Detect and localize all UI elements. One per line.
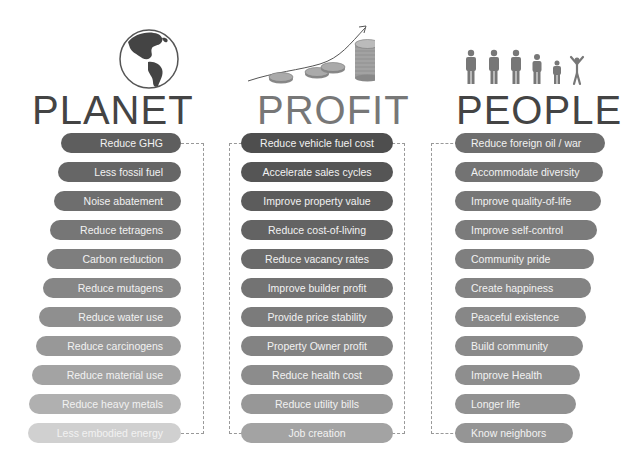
planet-item: Reduce material use bbox=[32, 365, 181, 385]
planet-title: PLANET bbox=[32, 88, 194, 132]
profit-item: Reduce utility bills bbox=[241, 394, 393, 414]
profit-item: Accelerate sales cycles bbox=[241, 162, 393, 182]
people-item: Improve quality-of-life bbox=[455, 191, 601, 211]
people-title: PEOPLE bbox=[456, 88, 622, 132]
planet-item: Reduce heavy metals bbox=[29, 394, 181, 414]
profit-item: Property Owner profit bbox=[241, 336, 393, 356]
people-item: Longer life bbox=[455, 394, 576, 414]
profit-item: Reduce vehicle fuel cost bbox=[241, 133, 393, 153]
profit-item: Reduce vacancy rates bbox=[241, 249, 393, 269]
globe-icon bbox=[118, 28, 180, 90]
profit-item: Improve builder profit bbox=[241, 278, 393, 298]
profit-item: Reduce cost-of-living bbox=[241, 220, 393, 240]
people-bracket bbox=[431, 143, 458, 434]
people-item: Improve self-control bbox=[455, 220, 597, 240]
profit-item: Job creation bbox=[241, 423, 393, 443]
profit-item: Reduce health cost bbox=[241, 365, 393, 385]
people-item: Improve Health bbox=[455, 365, 580, 385]
profit-item: Improve property value bbox=[241, 191, 393, 211]
people-item: Create happiness bbox=[455, 278, 591, 298]
people-item: Reduce foreign oil / war bbox=[455, 133, 605, 153]
planet-item: Reduce water use bbox=[39, 307, 181, 327]
people-figures-icon bbox=[462, 48, 592, 88]
people-item: Build community bbox=[455, 336, 583, 356]
people-item: Community pride bbox=[455, 249, 594, 269]
planet-item: Less fossil fuel bbox=[58, 162, 181, 182]
planet-item: Noise abatement bbox=[54, 191, 181, 211]
profit-title: PROFIT bbox=[257, 88, 410, 132]
planet-bracket bbox=[181, 143, 204, 434]
planet-item: Carbon reduction bbox=[47, 249, 181, 269]
profit-item: Provide price stability bbox=[241, 307, 393, 327]
coins-growth-chart-icon bbox=[245, 22, 375, 84]
planet-item: Reduce carcinogens bbox=[36, 336, 181, 356]
planet-item: Less embodied energy bbox=[28, 423, 181, 443]
people-item: Know neighbors bbox=[455, 423, 573, 443]
people-item: Peaceful existence bbox=[455, 307, 586, 327]
people-item: Accommodate diversity bbox=[455, 162, 603, 182]
planet-item: Reduce mutagens bbox=[43, 278, 181, 298]
planet-item: Reduce tetragens bbox=[50, 220, 181, 240]
planet-item: Reduce GHG bbox=[61, 133, 181, 153]
